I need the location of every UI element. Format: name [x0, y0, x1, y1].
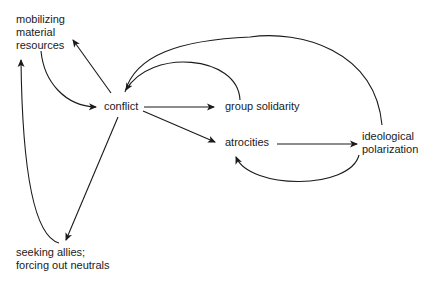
node-label-line: mobilizing [16, 13, 65, 26]
node-label-line: atrocities [225, 136, 269, 149]
edge-mobilizing-to-conflict [41, 51, 96, 107]
node-mobilizing-resources: mobilizing material resources [16, 13, 65, 52]
node-atrocities: atrocities [225, 136, 269, 149]
node-label-line: resources [16, 39, 65, 52]
node-label-line: polarization [362, 143, 418, 156]
edge-polarization-to-atrocities [236, 155, 359, 182]
node-group-solidarity: group solidarity [225, 100, 300, 113]
node-ideological-polarization: ideological polarization [362, 130, 418, 156]
node-seeking-allies: seeking allies; forcing out neutrals [16, 246, 110, 272]
edge-seeking-allies-to-mobilizing [21, 60, 59, 243]
node-label-line: conflict [104, 100, 138, 113]
edge-conflict-to-atrocities [143, 111, 215, 142]
node-label-line: forcing out neutrals [16, 259, 110, 272]
edge-conflict-to-seeking-allies [66, 117, 118, 240]
node-label-line: ideological [362, 130, 418, 143]
node-label-line: group solidarity [225, 100, 300, 113]
edge-conflict-to-mobilizing [73, 40, 111, 93]
conflict-spiral-diagram: mobilizing material resources conflict g… [0, 0, 429, 284]
node-conflict: conflict [104, 100, 138, 113]
node-label-line: seeking allies; [16, 246, 110, 259]
edge-group-solidarity-to-conflict [126, 62, 240, 100]
node-label-line: material [16, 26, 65, 39]
